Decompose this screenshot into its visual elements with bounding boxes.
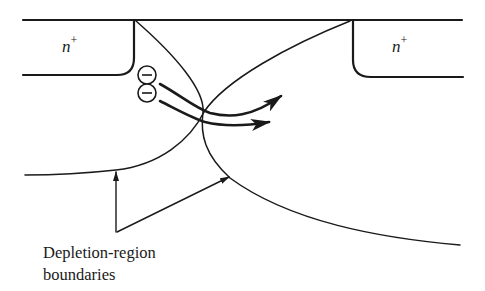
- pointer-line-diagonal: [117, 177, 229, 232]
- drain-label-base: n: [392, 37, 401, 56]
- electron-1: [138, 66, 156, 84]
- source-region-outline: [23, 20, 134, 75]
- source-label-sup: +: [71, 33, 78, 47]
- drain-label: n+: [392, 33, 408, 56]
- electron-2: [138, 84, 156, 102]
- drain-region-outline: [353, 21, 463, 77]
- source-depletion-boundary: [136, 21, 460, 245]
- source-label-base: n: [62, 37, 71, 56]
- diagram-canvas: n+ n+ Depletion-region boundaries: [0, 0, 485, 291]
- drain-label-sup: +: [401, 33, 408, 47]
- annotation-line-1: Depletion-region: [43, 243, 156, 262]
- source-label: n+: [62, 33, 78, 56]
- annotation-line-2: boundaries: [43, 265, 115, 284]
